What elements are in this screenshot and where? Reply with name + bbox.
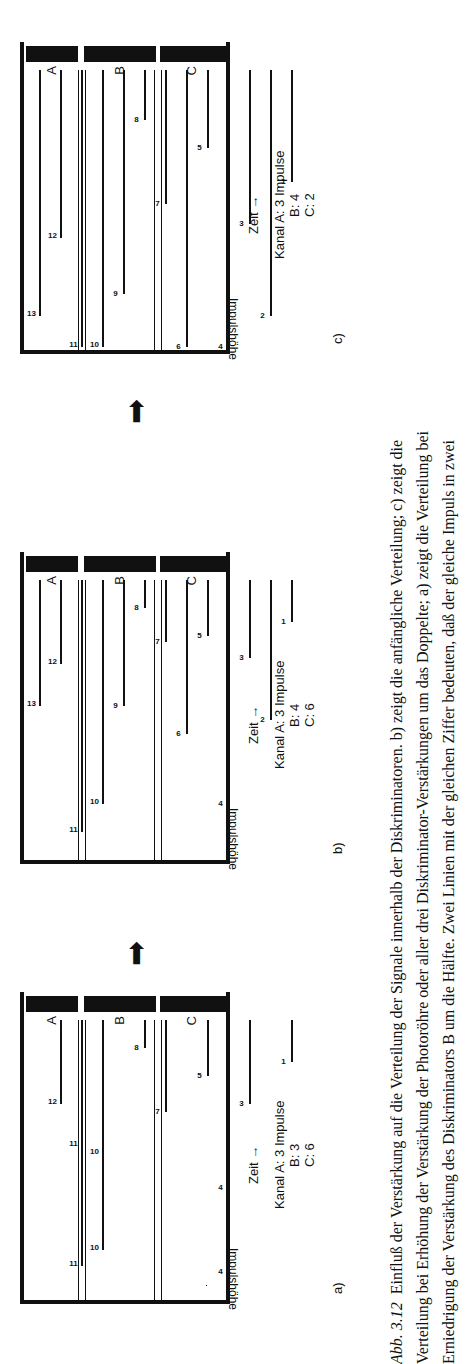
pulse-line — [81, 70, 83, 347]
pulse-line — [207, 1020, 209, 1076]
pulse-number: 10 — [90, 1147, 99, 1156]
plot-frame-b: A B C 12345678910111213 — [20, 552, 230, 864]
panel-b: A B C 12345678910111213 Impulshöhe Zeit … — [0, 544, 360, 864]
pulse-number: 11 — [69, 340, 77, 349]
channel-label-b: B — [112, 576, 127, 585]
channel-label-b: B — [112, 1016, 127, 1025]
pulse-line — [102, 1020, 104, 1154]
pulse-number: 11 — [69, 825, 77, 834]
pulse-number: 5 — [197, 631, 201, 640]
channel-counts: Kanal A: 3 Impulse B: 4 C: 2 — [272, 151, 317, 259]
pulse-number: 12 — [48, 1097, 57, 1106]
pulse-line — [228, 1020, 230, 1272]
pulse-number: 11 — [69, 1139, 77, 1148]
pulse-line — [291, 580, 293, 622]
pulse-number: 2 — [260, 311, 264, 320]
count-c: C: 2 — [302, 151, 317, 259]
arrow-right-icon: ➡ — [118, 941, 153, 966]
panel-label: b) — [330, 842, 345, 854]
pulse-number: 4 — [218, 342, 222, 351]
pulse-number: 5 — [197, 143, 201, 152]
pulse-number: 12 — [48, 231, 57, 240]
pulse-number: 3 — [239, 653, 243, 662]
figure-caption: Abb. 3.12 Einfluß der Verstärkung auf di… — [384, 0, 462, 1364]
pulse-number: 10 — [90, 797, 99, 806]
pulse-number: 12 — [48, 657, 57, 666]
pulse-line — [186, 580, 188, 734]
pulse-line — [249, 1020, 251, 1104]
plot-frame-c: A B C 12345678910111213 — [20, 42, 230, 354]
pulse-number: 8 — [134, 603, 138, 612]
pulse-number: 1 — [281, 1057, 285, 1066]
pulse-line — [186, 70, 188, 347]
panel-label: c) — [330, 333, 345, 344]
pulse-line — [228, 580, 230, 804]
pulse-line — [144, 1020, 146, 1048]
pulse-number: 7 — [155, 637, 159, 646]
pulse-line — [81, 1020, 83, 1146]
panel-a: A B C 13445781010111112 Impulshöhe Zeit … — [0, 984, 360, 1304]
pulse-line — [144, 580, 146, 608]
pulse-number: 4 — [218, 1183, 222, 1192]
pulse-number: 7 — [155, 199, 159, 208]
pulse-line — [60, 70, 62, 238]
y-axis-label: Impulshöhe — [226, 808, 240, 870]
plot-frame-a: A B C 13445781010111112 — [20, 992, 230, 1304]
y-axis-label: Impulshöhe — [226, 298, 240, 360]
pulse-number: 10 — [90, 340, 99, 349]
caption-text-1: Einfluß der Verstärkung auf die Verteilu… — [388, 440, 405, 1294]
channel-counts: Kanal A: 3 Impulse B: 4 C: 6 — [272, 661, 317, 769]
pulse-line — [39, 70, 41, 316]
pulse-line — [165, 1020, 167, 1112]
pulse-line — [165, 70, 167, 204]
count-a: Kanal A: 3 Impulse — [272, 151, 287, 259]
x-axis-label: Zeit → — [246, 706, 261, 744]
pulse-line — [123, 580, 125, 706]
pulse-line — [60, 1020, 62, 1104]
pulse-number: 6 — [176, 342, 180, 351]
pulse-number: 13 — [27, 699, 36, 708]
pulse-number: 6 — [176, 729, 180, 738]
count-a: Kanal A: 3 Impulse — [272, 661, 287, 769]
pulse-line — [60, 580, 62, 664]
figure-canvas: A B C 13445781010111112 Impulshöhe Zeit … — [0, 0, 467, 1364]
pulse-line — [102, 580, 104, 804]
caption-line-3: Erniedrigung der Verstärkung des Diskrim… — [436, 0, 462, 1364]
pulse-number: 9 — [113, 701, 117, 710]
figure-number: Abb. 3.12 — [388, 1302, 405, 1364]
channel-label-a: A — [44, 1016, 59, 1025]
pulse-number: 10 — [90, 1243, 99, 1252]
pulse-number: 5 — [197, 1071, 201, 1080]
panel-label: a) — [330, 1282, 345, 1294]
y-axis-label: Impulshöhe — [226, 1248, 240, 1310]
channel-label-b: B — [112, 66, 127, 75]
pulse-number: 1 — [281, 617, 285, 626]
pulse-line — [123, 70, 125, 294]
pulse-number: 8 — [134, 1043, 138, 1052]
pulse-number: 4 — [218, 1267, 222, 1276]
pulse-line — [81, 580, 83, 832]
pulse-number: 9 — [113, 289, 117, 298]
caption-line-2: Verteilung bei Erhöhung der Verstärkung … — [410, 0, 436, 1364]
pulse-line — [207, 580, 209, 636]
count-b: B: 3 — [287, 1101, 302, 1209]
channel-counts: Kanal A: 3 Impulse B: 3 C: 6 — [272, 1101, 317, 1209]
count-c: C: 6 — [302, 661, 317, 769]
count-c: C: 6 — [302, 1101, 317, 1209]
x-axis-label: Zeit → — [246, 1146, 261, 1184]
pulse-line — [39, 580, 41, 706]
y-axis — [20, 1300, 230, 1304]
panel-c: A B C 12345678910111213 Impulshöhe Zeit … — [0, 34, 360, 354]
pulse-number: 13 — [27, 309, 36, 318]
pulse-line — [249, 580, 251, 658]
count-b: B: 4 — [287, 661, 302, 769]
arrow-right-icon: ➡ — [118, 399, 153, 424]
caption-line-1: Abb. 3.12 Einfluß der Verstärkung auf di… — [384, 0, 410, 1364]
pulse-number: 11 — [69, 1259, 77, 1268]
pulse-line — [144, 70, 146, 120]
channel-label-a: A — [44, 66, 59, 75]
pulse-number: 8 — [134, 115, 138, 124]
x-axis-label: Zeit → — [246, 196, 261, 234]
count-b: B: 4 — [287, 151, 302, 259]
pulse-line — [165, 580, 167, 642]
